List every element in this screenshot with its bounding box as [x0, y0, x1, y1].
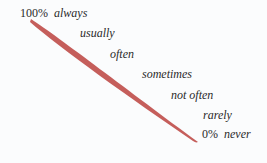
- label-often: often: [110, 47, 134, 61]
- label-not-often: not often: [171, 88, 213, 102]
- label-rarely: rarely: [203, 108, 232, 122]
- label-usually: usually: [80, 26, 115, 40]
- percent-100: 100%: [20, 6, 48, 20]
- percent-0: 0%: [202, 127, 218, 141]
- label-sometimes: sometimes: [142, 67, 192, 81]
- word-never: never: [224, 127, 251, 141]
- label-never: 0%never: [202, 127, 251, 141]
- word-always: always: [54, 6, 87, 20]
- label-always: 100%always: [20, 6, 87, 20]
